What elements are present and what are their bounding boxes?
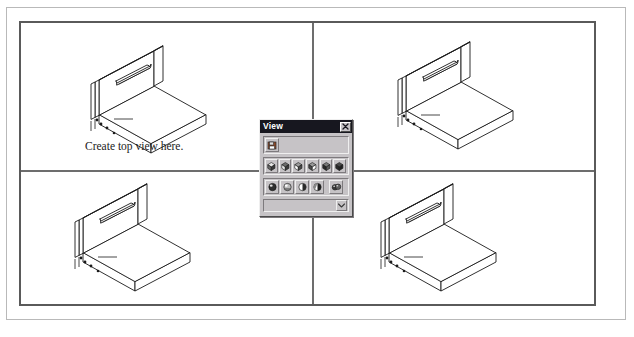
toolbar-row-shading-modes <box>263 178 349 196</box>
named-views-icon[interactable] <box>265 138 279 152</box>
app-window: Create top view here. <box>0 0 634 337</box>
isometric-model-top-right <box>314 23 594 170</box>
pane-hint-top-left: Create top view here. <box>85 140 183 152</box>
view-toolbar-palette[interactable]: View <box>259 119 353 217</box>
close-icon[interactable] <box>340 122 351 132</box>
shade-3d-wireframe-icon[interactable] <box>280 180 294 194</box>
toolbar-body <box>260 133 352 216</box>
view-back-icon[interactable] <box>333 159 346 173</box>
toolbar-title: View <box>263 120 283 133</box>
pane-bottom-right[interactable] <box>314 172 594 304</box>
view-top-icon[interactable] <box>265 159 278 173</box>
view-left-icon[interactable] <box>292 159 305 173</box>
shade-hidden-icon[interactable] <box>295 180 309 194</box>
view-preset-combobox[interactable] <box>263 199 349 212</box>
shade-flat-icon[interactable] <box>310 180 324 194</box>
view-right-icon[interactable] <box>306 159 319 173</box>
view-front-icon[interactable] <box>320 159 333 173</box>
toolbar-titlebar[interactable]: View <box>260 120 352 133</box>
shade-2d-wireframe-icon[interactable] <box>265 180 279 194</box>
isometric-model-bottom-right <box>314 172 594 304</box>
pane-top-right[interactable] <box>314 23 594 170</box>
toolbar-row-named-views <box>263 136 349 154</box>
toolbar-row-standard-views <box>263 157 349 175</box>
view-bottom-icon[interactable] <box>279 159 292 173</box>
chevron-down-icon[interactable] <box>336 200 347 211</box>
shade-gouraud-icon[interactable] <box>329 180 343 194</box>
